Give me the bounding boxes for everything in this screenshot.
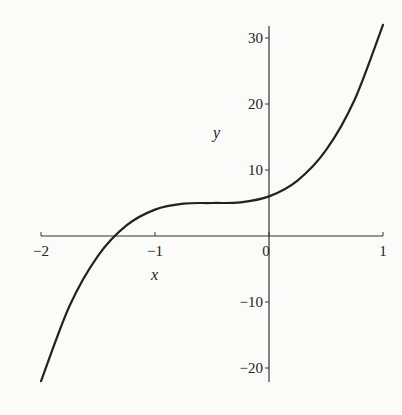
y-tick-label: −10 (240, 294, 263, 310)
x-tick-label: −1 (147, 243, 163, 259)
x-axis-label: x (150, 266, 158, 283)
y-tick-label: 20 (248, 96, 263, 112)
x-tick-label: −2 (33, 243, 49, 259)
x-tick-label: 1 (379, 243, 387, 259)
x-tick-label: 0 (262, 243, 270, 259)
y-tick-label: 30 (248, 30, 263, 46)
y-axis-label: y (211, 124, 221, 142)
function-curve (41, 25, 383, 381)
y-tick-label: −20 (240, 360, 263, 376)
y-tick-label: 10 (248, 162, 263, 178)
function-plot: −2−101 302010−10−20 x y (0, 0, 402, 415)
